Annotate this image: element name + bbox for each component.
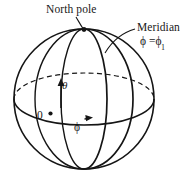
- meridian-reference-back: [61, 29, 84, 169]
- origin-label: 0: [37, 110, 43, 122]
- meridian-reference-front: [84, 29, 107, 169]
- north-pole-leader-line: [76, 17, 83, 29]
- north-pole-label: North pole: [46, 4, 97, 16]
- phi-label: ϕ: [74, 122, 80, 134]
- figure-container: North pole Meridian ϕ =ϕ1 θ 0 ϕ: [0, 0, 193, 173]
- phi-arrow-head: [85, 115, 93, 121]
- meridian-phi1-back: [35, 29, 84, 169]
- phi-arrow: [85, 115, 94, 121]
- theta-label: θ: [62, 80, 67, 91]
- meridian-phi1-front: [84, 29, 133, 169]
- origin-point: [48, 111, 52, 115]
- meridian-leader-line: [105, 29, 135, 53]
- meridian-equation-subscript: 1: [161, 43, 165, 52]
- meridian-label: Meridian: [137, 22, 180, 34]
- meridian-equation-label: ϕ =ϕ1: [140, 36, 165, 50]
- meridian-equation-lhs: ϕ =: [140, 35, 155, 47]
